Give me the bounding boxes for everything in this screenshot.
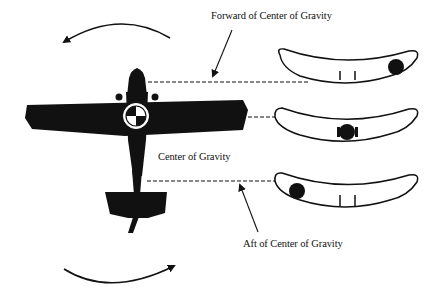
inclinometer-ball xyxy=(388,59,404,75)
inclinometer-ball xyxy=(339,124,355,140)
aft-cg-label: Aft of Center of Gravity xyxy=(243,238,343,249)
inclinometer-center xyxy=(275,108,418,141)
rotation-arrow-bottom-icon xyxy=(64,266,174,283)
inclinometer-ball xyxy=(289,183,305,199)
center-cg-label: Center of Gravity xyxy=(158,151,230,162)
aft-pointer-arrow xyxy=(240,185,258,232)
inclinometer-forward xyxy=(279,49,418,83)
forward-cg-label: Forward of Center of Gravity xyxy=(211,10,332,21)
rotation-arrow-top-icon xyxy=(64,24,170,42)
forward-pointer-arrow xyxy=(213,30,232,76)
cg-diagram: Forward of Center of Gravity Center of G… xyxy=(0,0,447,298)
inclinometer-aft xyxy=(275,173,418,207)
cg-symbol-icon xyxy=(124,104,149,129)
